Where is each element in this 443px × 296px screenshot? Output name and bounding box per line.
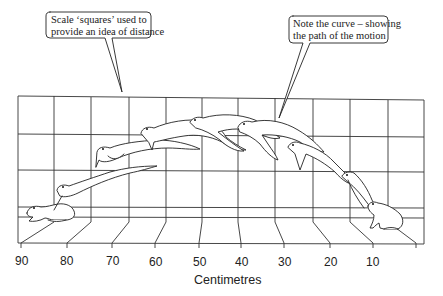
tick-20: 20 — [324, 255, 338, 269]
tick-30: 30 — [278, 255, 292, 269]
tick-60: 60 — [149, 255, 163, 269]
tick-50: 50 — [193, 255, 207, 269]
tick-80: 80 — [60, 254, 74, 268]
tick-40: 40 — [235, 255, 249, 269]
frog-frame-9 — [368, 202, 403, 229]
callout-scale-line-1: Scale ‘squares’ used to — [51, 14, 147, 25]
distance-axis: 90 80 70 60 50 40 30 20 10 Centimetres — [15, 254, 380, 287]
tick-10: 10 — [366, 255, 380, 269]
tick-90: 90 — [15, 254, 29, 268]
tick-70: 70 — [106, 254, 120, 268]
callout-scale-squares: Scale ‘squares’ used to provide an idea … — [46, 12, 164, 92]
frog-frame-2 — [54, 166, 157, 210]
frog-frame-1 — [27, 204, 75, 222]
axis-title: Centimetres — [194, 273, 261, 287]
callout-curve-line-1: Note the curve – showing — [293, 18, 402, 29]
callout-curve-line-2: the path of the motion — [293, 30, 386, 41]
frog-jump-diagram: Scale ‘squares’ used to provide an idea … — [0, 0, 443, 296]
callout-curve-note: Note the curve – showing the path of the… — [279, 16, 402, 118]
callout-scale-line-2: provide an idea of distance — [51, 26, 164, 37]
frog-frame-3 — [96, 140, 200, 167]
